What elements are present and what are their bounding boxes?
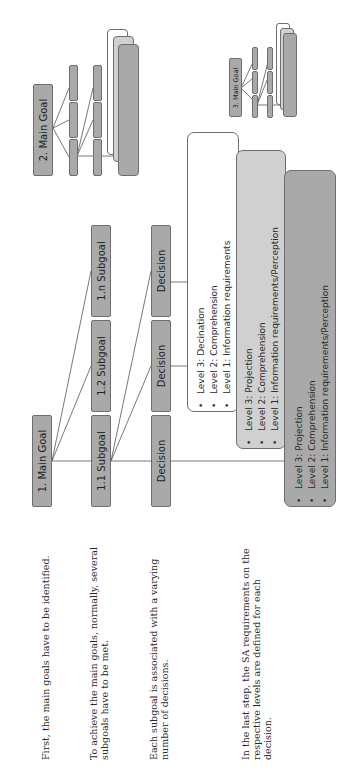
mini-main-goal-box: 2. Main Goal [33, 84, 53, 176]
mini-subgoal [252, 71, 258, 94]
mini-decision [267, 47, 273, 70]
main-goal-box: 1. Main Goal [32, 415, 52, 507]
decision-label: Decision [156, 250, 167, 293]
level-item: • Level 2: Comprehension [306, 285, 319, 503]
level-list-white: • Level 3: Decination • Level 2: Compreh… [195, 241, 234, 408]
level-list-dark: • Level 3: Projection • Level 2: Compreh… [293, 285, 332, 503]
description-step-4: In the last step, the SA requirements on… [240, 548, 273, 760]
description-line: To achieve the main goals, normally, sev… [88, 547, 99, 760]
level-item: • Level 3: Projection [243, 227, 256, 445]
main-goal-label: 1. Main Goal [37, 430, 48, 493]
subgoal-box: 1.n Subgoal [91, 225, 111, 317]
description-step-3: Each subgoal is associated with a varyin… [148, 559, 170, 760]
mini-decision [93, 139, 102, 176]
mini-decision [267, 71, 273, 94]
mini-main-goal-label: 2. Main Goal [38, 99, 49, 162]
level-item: • Level 1: Information requirements/Perc… [319, 285, 332, 503]
description-line: decision. [262, 548, 273, 760]
subgoal-box: 1.1 Subgoal [91, 415, 111, 507]
subgoal-label: 1.n Subgoal [96, 241, 107, 300]
description-line: In the last step, the SA requirements on… [240, 548, 251, 760]
level-item: • Level 1: Information requirements/Perc… [269, 227, 282, 445]
mini-subgoal [69, 65, 78, 101]
level-item: • Level 1: Information requirements [221, 241, 234, 408]
level-item: • Level 3: Projection [293, 285, 306, 503]
mini-decision [93, 102, 102, 138]
level-item: • Level 2: Comprehension [208, 241, 221, 408]
decision-box: Decision [151, 225, 171, 317]
subgoal-label: 1.1 Subgoal [96, 431, 107, 491]
decision-label: Decision [156, 440, 167, 483]
decision-box: Decision [151, 415, 171, 507]
level-list-light: • Level 3: Projection • Level 2: Compreh… [243, 227, 282, 445]
description-line: respective levels are defined for each [251, 548, 262, 760]
description-step-2: To achieve the main goals, normally, sev… [88, 547, 110, 760]
description-line: number of decisions. [159, 559, 170, 760]
description-step-1: First, the main goals have to be identif… [40, 555, 51, 760]
mini-main-goal-box: 3. Main Goal [229, 58, 242, 117]
mini-main-goal-label: 3. Main Goal [232, 67, 240, 108]
level-item: • Level 2: Comprehension [256, 227, 269, 445]
description-line: subgoals have to be met. [99, 547, 110, 760]
mini-decision [93, 65, 102, 101]
mini-subgoal [69, 102, 78, 138]
decision-box: Decision [151, 320, 171, 412]
level-item: • Level 3: Decination [195, 241, 208, 408]
mini-decision [267, 95, 273, 118]
subgoal-label: 1.2 Subgoal [96, 336, 107, 396]
mini-level-box-dark [283, 33, 297, 117]
mini-subgoal [252, 95, 258, 118]
subgoal-box: 1.2 Subgoal [91, 320, 111, 412]
mini-level-box-dark [118, 44, 139, 176]
mini-subgoal [252, 47, 258, 70]
description-line: First, the main goals have to be identif… [40, 555, 51, 760]
decision-label: Decision [156, 345, 167, 388]
description-line: Each subgoal is associated with a varyin… [148, 559, 159, 760]
mini-subgoal [69, 139, 78, 176]
